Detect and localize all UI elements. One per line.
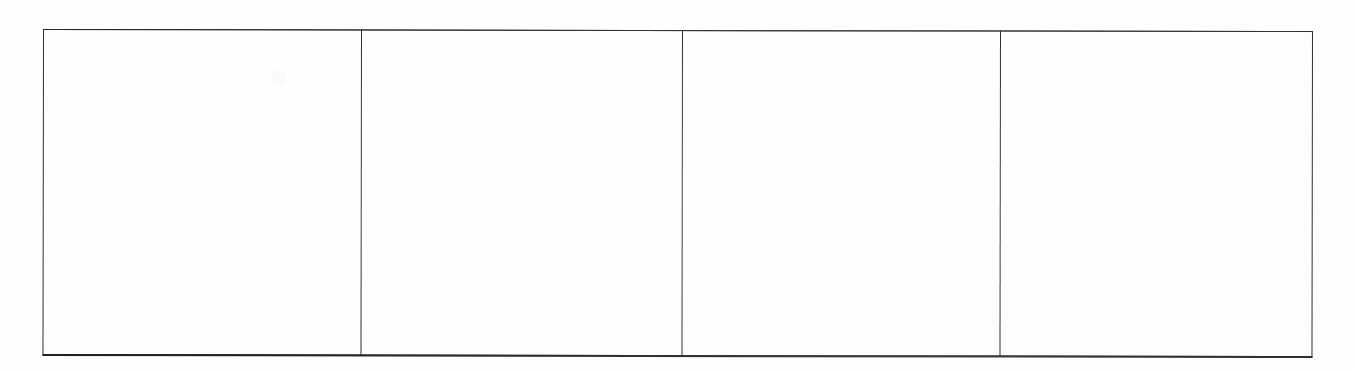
table-body <box>42 29 1313 357</box>
page-canvas <box>0 0 1356 371</box>
scan-smudge-artifact <box>273 71 286 85</box>
cell-content-3 <box>681 30 999 356</box>
table-cell-3[interactable] <box>681 30 999 356</box>
cell-content-2 <box>360 29 682 356</box>
table-cell-2[interactable] <box>360 29 682 356</box>
cell-content-4 <box>999 31 1313 357</box>
cell-content-1 <box>42 29 360 355</box>
table-container <box>42 29 1313 357</box>
table-cell-1[interactable] <box>42 29 360 355</box>
empty-table <box>42 29 1313 357</box>
table-cell-4[interactable] <box>999 31 1313 357</box>
table-row <box>42 29 1313 357</box>
